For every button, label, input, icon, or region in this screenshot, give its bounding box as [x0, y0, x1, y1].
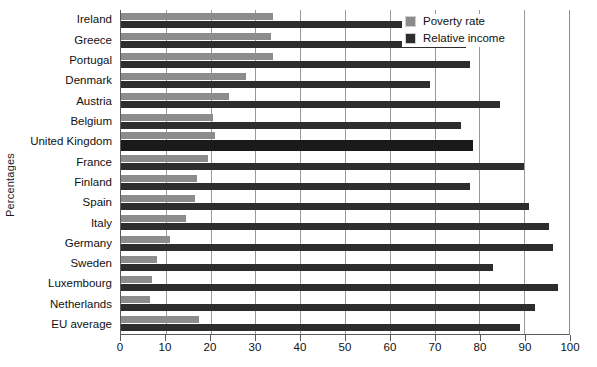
bar-poverty-rate	[121, 73, 246, 80]
category-label: Italy	[16, 213, 116, 233]
bar-poverty-rate	[121, 215, 186, 222]
bar-poverty-rate	[121, 276, 152, 283]
category-label: United Kingdom	[16, 132, 116, 152]
bar-poverty-rate	[121, 33, 271, 40]
bar-relative-income	[121, 140, 473, 151]
plot-area	[120, 10, 570, 335]
bar-relative-income	[121, 61, 470, 68]
bar-poverty-rate	[121, 53, 273, 60]
bar-poverty-rate	[121, 296, 150, 303]
bar-poverty-rate	[121, 175, 197, 182]
category-label: Denmark	[16, 71, 116, 91]
category-label: EU average	[16, 315, 116, 335]
category-label: Germany	[16, 233, 116, 253]
legend-swatch-icon	[405, 16, 416, 27]
bar-group	[121, 253, 569, 273]
x-axis-tick-label: 20	[204, 341, 217, 353]
x-axis-tick-label: 30	[249, 341, 262, 353]
bar-group	[121, 294, 569, 314]
bar-group	[121, 50, 569, 70]
bar-chart: Percentages IrelandGreecePortugalDenmark…	[0, 0, 597, 367]
y-axis-category-labels: IrelandGreecePortugalDenmarkAustriaBelgi…	[16, 10, 116, 335]
x-axis-tick-label: 80	[474, 341, 487, 353]
bar-group	[121, 71, 569, 91]
category-label: Luxembourg	[16, 274, 116, 294]
x-axis-tick-label: 70	[429, 341, 442, 353]
bar-group	[121, 172, 569, 192]
bar-poverty-rate	[121, 114, 213, 121]
bar-relative-income	[121, 203, 529, 210]
category-label: Netherlands	[16, 294, 116, 314]
bar-relative-income	[121, 122, 461, 129]
bar-group	[121, 111, 569, 131]
category-label: Spain	[16, 193, 116, 213]
x-axis-tick-label: 60	[384, 341, 397, 353]
bar-relative-income	[121, 264, 493, 271]
x-axis-tick-labels: 0102030405060708090100	[120, 341, 570, 359]
legend-label: Relative income	[423, 33, 505, 45]
bar-groups	[121, 10, 569, 334]
bar-relative-income	[121, 304, 535, 311]
bar-poverty-rate	[121, 195, 195, 202]
bar-relative-income	[121, 223, 549, 230]
bar-relative-income	[121, 81, 430, 88]
bar-poverty-rate	[121, 93, 229, 100]
legend-swatch-icon	[405, 33, 416, 44]
bar-group	[121, 131, 569, 152]
chart-legend: Poverty rateRelative income	[402, 14, 508, 47]
category-label: Ireland	[16, 10, 116, 30]
category-label: Greece	[16, 30, 116, 50]
bar-relative-income	[121, 324, 520, 331]
x-axis-tick-label: 100	[560, 341, 579, 353]
x-axis-tick-label: 10	[159, 341, 172, 353]
legend-label: Poverty rate	[423, 16, 485, 28]
category-label: Sweden	[16, 254, 116, 274]
bar-poverty-rate	[121, 236, 170, 243]
bar-poverty-rate	[121, 132, 215, 139]
bar-relative-income	[121, 284, 558, 291]
bar-group	[121, 273, 569, 293]
category-label: France	[16, 152, 116, 172]
bar-group	[121, 314, 569, 334]
x-axis-tick-label: 40	[294, 341, 307, 353]
bar-group	[121, 193, 569, 213]
legend-item: Poverty rate	[405, 16, 505, 28]
bar-relative-income	[121, 163, 524, 170]
bar-relative-income	[121, 21, 432, 28]
bar-poverty-rate	[121, 316, 199, 323]
category-label: Portugal	[16, 51, 116, 71]
x-axis-tick-label: 50	[339, 341, 352, 353]
x-axis-tick-label: 0	[117, 341, 123, 353]
bar-poverty-rate	[121, 155, 208, 162]
x-axis-tick-label: 90	[519, 341, 532, 353]
bar-relative-income	[121, 101, 500, 108]
bar-group	[121, 91, 569, 111]
bar-group	[121, 233, 569, 253]
category-label: Austria	[16, 91, 116, 111]
bar-poverty-rate	[121, 256, 157, 263]
bar-relative-income	[121, 244, 553, 251]
bar-relative-income	[121, 183, 470, 190]
bar-group	[121, 213, 569, 233]
legend-item: Relative income	[405, 33, 505, 45]
bar-poverty-rate	[121, 13, 273, 20]
category-label: Finland	[16, 173, 116, 193]
bar-group	[121, 152, 569, 172]
category-label: Belgium	[16, 112, 116, 132]
